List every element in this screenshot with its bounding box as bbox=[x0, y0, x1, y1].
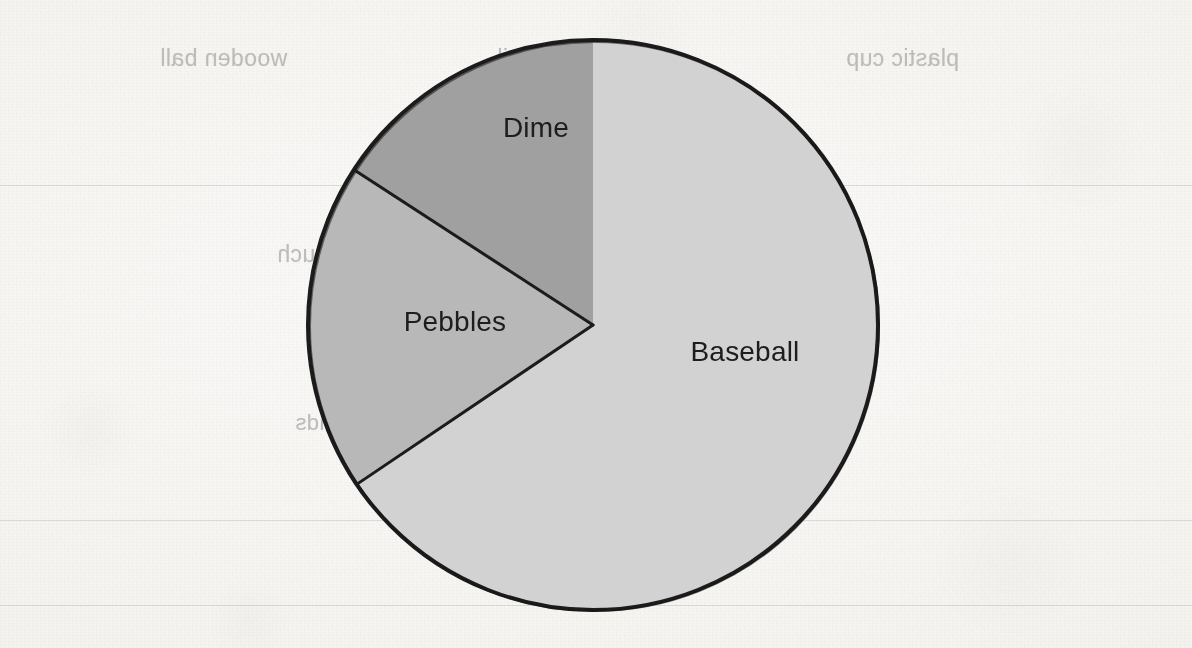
worksheet-scan-page: wooden balliron nailplastic cup20. If yo… bbox=[0, 0, 1192, 648]
pie-chart: BaseballPebblesDime bbox=[308, 35, 888, 615]
pie-chart-svg bbox=[308, 35, 888, 615]
